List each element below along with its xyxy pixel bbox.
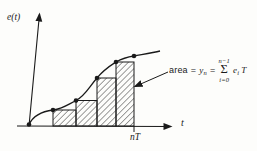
sample-dot <box>51 108 56 113</box>
equals-sign: = <box>210 65 215 75</box>
summand-term: eiT <box>233 65 246 75</box>
nt-tick-label: nT <box>124 132 146 142</box>
summation-symbol: n−1 Σ i=0 <box>218 57 230 83</box>
figure-canvas: e(t) t nT area = yn = n−1 Σ i=0 eiT <box>0 0 257 151</box>
sample-dot <box>132 54 137 59</box>
x-axis <box>17 126 171 127</box>
sample-dot <box>74 98 79 103</box>
sample-dot <box>27 122 32 127</box>
hatched-bar <box>76 101 97 127</box>
sigma-icon: Σ <box>220 64 227 76</box>
hatched-bar <box>53 110 76 126</box>
annotation-arrow <box>135 72 168 87</box>
area-word: area <box>169 65 188 75</box>
hatched-bar <box>97 78 116 126</box>
sample-dot <box>114 60 119 65</box>
hatched-bars <box>53 62 134 126</box>
x-axis-label: t <box>181 117 184 128</box>
hatched-bar <box>116 62 134 126</box>
sample-dot <box>95 76 100 81</box>
y-axis-label: e(t) <box>7 12 20 22</box>
output-variable: yn <box>199 65 207 75</box>
sum-lower-limit: i=0 <box>219 76 229 83</box>
y-axis <box>29 14 40 126</box>
equals-sign: = <box>191 65 196 75</box>
area-annotation: area = yn = n−1 Σ i=0 eiT <box>169 57 246 83</box>
